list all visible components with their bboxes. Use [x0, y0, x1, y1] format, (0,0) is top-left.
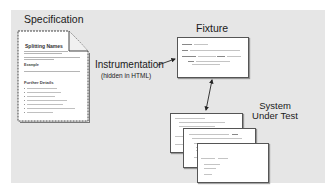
- connector-arrows: [0, 0, 334, 196]
- fixture-sut-arrow-icon: [206, 80, 212, 110]
- instrumentation-arrow-icon: [158, 59, 175, 65]
